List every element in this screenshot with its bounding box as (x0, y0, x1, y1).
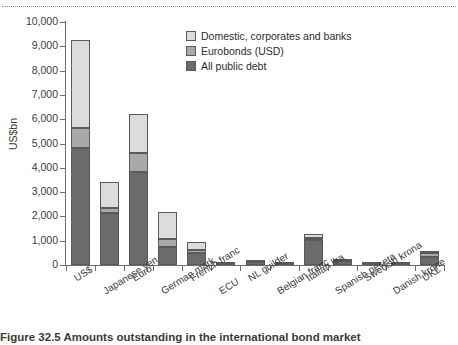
x-axis-tick (182, 266, 183, 271)
legend-item[interactable]: Eurobonds (USD) (186, 44, 416, 58)
bar-segment[interactable] (158, 212, 177, 239)
bar-segment[interactable] (100, 208, 119, 213)
y-axis-tick-label: 2,000 (2, 210, 58, 220)
bar-segment[interactable] (158, 239, 177, 247)
y-axis-tick-label: 7,000 (2, 89, 58, 99)
legend-swatch-icon (186, 46, 196, 56)
bar-segment[interactable] (129, 114, 148, 153)
y-axis-tick-label: 4,000 (2, 162, 58, 172)
bar-segment[interactable] (129, 153, 148, 172)
y-axis-tick-label: 0 (2, 259, 58, 269)
bar-segment[interactable] (187, 250, 206, 252)
legend-swatch-icon (186, 31, 196, 41)
bar-segment[interactable] (304, 234, 323, 238)
bar-segment[interactable] (246, 260, 265, 262)
chart-legend: Domestic, corporates and banksEurobonds … (186, 29, 416, 74)
bar-segment[interactable] (129, 172, 148, 265)
y-axis-tick-label: 3,000 (2, 186, 58, 196)
legend-label: Domestic, corporates and banks (201, 30, 352, 42)
bar-group[interactable] (129, 22, 148, 265)
bar-segment[interactable] (304, 238, 323, 241)
bar-segment[interactable] (420, 251, 439, 253)
legend-item[interactable]: All public debt (186, 59, 416, 73)
x-axis-tick (240, 266, 241, 271)
bar-group[interactable] (100, 22, 119, 265)
top-dotted-rule (2, 6, 456, 7)
bar-segment[interactable] (187, 242, 206, 251)
x-axis-tick (95, 266, 96, 271)
bar-group[interactable] (420, 22, 439, 265)
legend-label: Eurobonds (USD) (201, 45, 284, 57)
figure-container: US$bn 10,0009,0008,0007,0006,0005,0004,0… (0, 0, 458, 345)
x-axis-tick (66, 266, 67, 271)
y-axis-tick-label: 5,000 (2, 138, 58, 148)
bar-segment[interactable] (158, 247, 177, 265)
bar-segment[interactable] (71, 148, 90, 265)
bar-segment[interactable] (420, 253, 439, 257)
bar-segment[interactable] (100, 182, 119, 208)
bar-segment[interactable] (71, 128, 90, 149)
y-axis-tick-label: 8,000 (2, 65, 58, 75)
x-axis-category-label: ECU (217, 276, 241, 297)
bar-group[interactable] (158, 22, 177, 265)
x-axis-category-label: US$ (72, 264, 94, 284)
legend-item[interactable]: Domestic, corporates and banks (186, 29, 416, 43)
x-axis-tick (124, 266, 125, 271)
bar-group[interactable] (71, 22, 90, 265)
legend-swatch-icon (186, 61, 196, 71)
y-axis-tick-label: 1,000 (2, 235, 58, 245)
legend-label: All public debt (201, 60, 266, 72)
bar-segment[interactable] (100, 213, 119, 265)
y-axis-tick-label: 6,000 (2, 113, 58, 123)
y-axis-tick-label: 10,000 (2, 16, 58, 26)
figure-caption: Figure 32.5 Amounts outstanding in the i… (0, 331, 458, 343)
bar-segment[interactable] (71, 40, 90, 127)
y-axis-tick-label: 9,000 (2, 40, 58, 50)
y-axis-labels: 10,0009,0008,0007,0006,0005,0004,0003,00… (0, 0, 58, 345)
